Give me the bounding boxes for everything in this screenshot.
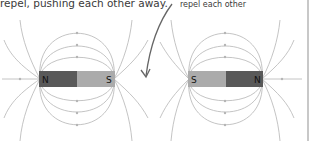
magnet-left: N S (39, 71, 115, 87)
magnetic-field-diagram: N S S N (0, 0, 316, 141)
pole-label: S (106, 75, 112, 85)
pole-label: N (42, 75, 49, 85)
panel-border (307, 0, 309, 141)
pole-label: S (191, 75, 197, 85)
magnet-right: S N (188, 71, 263, 87)
pole-label: N (254, 75, 261, 85)
pointer-arrow (141, 4, 172, 77)
